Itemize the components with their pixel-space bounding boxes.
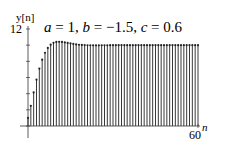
stem-marker	[103, 44, 105, 46]
stem-marker	[118, 44, 120, 46]
stem-marker	[132, 44, 134, 46]
stem-marker	[115, 44, 117, 46]
stem-marker	[69, 42, 71, 44]
stem-marker	[47, 47, 49, 49]
stem-marker	[120, 44, 122, 46]
chart-title: a = 1, b = −1.5, c = 0.6	[44, 19, 183, 35]
stem-marker	[186, 44, 188, 46]
stem-marker	[81, 44, 83, 46]
stem-marker	[137, 44, 139, 46]
stem-marker	[106, 44, 108, 46]
stem-marker	[174, 44, 176, 46]
stem-marker	[67, 42, 69, 44]
stem-marker	[197, 44, 199, 46]
stem-marker	[171, 44, 173, 46]
stem-marker	[169, 44, 171, 46]
stem-marker	[52, 42, 54, 44]
stem-marker	[84, 44, 86, 46]
stem-marker	[35, 79, 37, 81]
stem-marker	[157, 44, 159, 46]
stem-marker	[72, 43, 74, 45]
stem-marker	[143, 44, 145, 46]
stem-marker	[135, 44, 137, 46]
stem-marker	[123, 44, 125, 46]
stem-marker	[75, 43, 77, 45]
stem-marker	[112, 44, 114, 46]
stem-marker	[129, 44, 131, 46]
x-tick-label-60: 60	[189, 128, 201, 142]
stem-marker	[177, 44, 179, 46]
stem-marker	[38, 68, 40, 70]
stem-marker	[101, 44, 103, 46]
stem-marker	[166, 44, 168, 46]
stem-marker	[33, 91, 35, 93]
stem-marker	[146, 44, 148, 46]
stem-marker	[30, 105, 32, 107]
stem-marker	[109, 44, 111, 46]
stem-marker	[194, 44, 196, 46]
stem-plot: y[n] 12 60 n a = 1, b = −1.5, c = 0.6	[0, 0, 229, 144]
stem-marker	[50, 44, 52, 46]
stem-marker	[86, 44, 88, 46]
stem-marker	[183, 44, 185, 46]
data-stems	[27, 41, 199, 126]
stem-marker	[188, 44, 190, 46]
stem-marker	[163, 44, 165, 46]
stem-marker	[61, 41, 63, 43]
y-tick-label-12: 12	[10, 22, 22, 36]
stem-marker	[98, 44, 100, 46]
stem-marker	[92, 44, 94, 46]
stem-marker	[152, 44, 154, 46]
stem-marker	[140, 44, 142, 46]
stem-marker	[41, 59, 43, 61]
x-axis-label: n	[202, 121, 208, 133]
stem-marker	[64, 41, 66, 43]
stem-marker	[55, 41, 57, 43]
stem-marker	[160, 44, 162, 46]
stem-marker	[58, 41, 60, 43]
stem-marker	[126, 44, 128, 46]
stem-marker	[180, 44, 182, 46]
stem-marker	[44, 52, 46, 54]
stem-marker	[95, 44, 97, 46]
stem-marker	[154, 44, 156, 46]
stem-marker	[191, 44, 193, 46]
stem-marker	[89, 44, 91, 46]
stem-marker	[78, 44, 80, 46]
stem-marker	[149, 44, 151, 46]
